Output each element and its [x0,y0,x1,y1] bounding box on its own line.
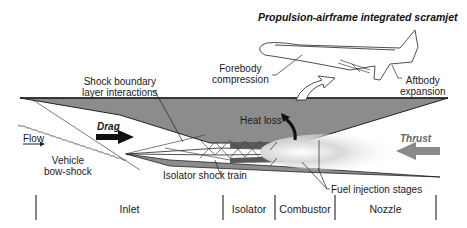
label-thrust: Thrust [400,133,431,144]
label-forebody-compression: Forebody compression [212,63,269,85]
aircraft-sketch [260,30,418,80]
drag-arrow [96,130,134,144]
section-nozzle: Nozzle [335,203,436,215]
section-isolator: Isolator [223,203,275,215]
label-aftbody-expansion: Aftbody expansion [400,75,446,97]
section-combustor: Combustor [275,203,335,215]
integration-arrow [296,76,335,100]
label-flow: Flow [23,133,44,144]
label-shock-boundary: Shock boundary layer interactions [82,76,158,98]
exhaust-plume [260,134,400,170]
label-fuel-injection: Fuel injection stages [331,184,422,195]
label-heat-loss: Heat loss [240,115,282,126]
section-inlet: Inlet [36,203,223,215]
label-isolator-shock-train: Isolator shock train [163,170,247,181]
label-drag: Drag [97,121,120,132]
label-bow-shock: Vehicle bow-shock [44,155,92,177]
diagram-title: Propulsion-airframe integrated scramjet [258,11,458,23]
thrust-arrow [396,142,440,160]
vehicle-upper-body [20,98,448,143]
